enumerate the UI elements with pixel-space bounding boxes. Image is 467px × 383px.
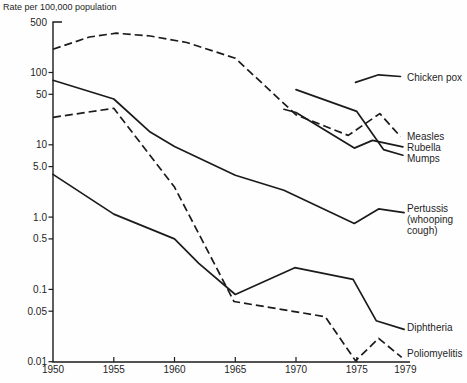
chart-figure: Rate per 100,000 population 50010050105.… [0, 0, 467, 383]
series-label-pertussis-whooping-cough-2: (whooping [407, 214, 453, 225]
y-tick-label-0-1: 0.1 [33, 284, 47, 295]
x-tick-label-1979: 1979 [394, 364, 417, 375]
y-tick-label-0-5: 0.5 [33, 233, 47, 244]
x-tick-label-1965: 1965 [224, 364, 247, 375]
y-tick-label-500: 500 [30, 17, 47, 28]
series-labels: Chicken poxMeaslesRubellaMumpsPertussis(… [407, 72, 463, 359]
y-tick-label-100: 100 [30, 67, 47, 78]
series-line-diphtheria [53, 174, 404, 329]
series-line-chicken-pox [356, 75, 401, 83]
axis-spine [53, 22, 410, 362]
series-label-measles: Measles [407, 131, 444, 142]
x-tick-label-1960: 1960 [163, 364, 186, 375]
series-label-poliomyelitis: Poliomyelitis [407, 348, 463, 359]
series-label-diphtheria: Diphtheria [407, 322, 453, 333]
series-label-chicken-pox: Chicken pox [407, 72, 462, 83]
y-tick-label-5-0: 5.0 [33, 161, 47, 172]
plot-area [53, 33, 404, 361]
x-tick-label-1955: 1955 [103, 364, 126, 375]
x-tick-label-1970: 1970 [285, 364, 308, 375]
series-label-pertussis-whooping-cough-1: Pertussis [407, 203, 448, 214]
chart-title: Rate per 100,000 population [3, 2, 117, 12]
y-tick-label-1-0: 1.0 [33, 212, 47, 223]
series-line-measles [53, 33, 401, 136]
y-tick-label-10: 10 [36, 139, 48, 150]
series-line-rubella [284, 109, 403, 148]
x-tick-label-1950: 1950 [42, 364, 65, 375]
y-tick-label-50: 50 [36, 89, 48, 100]
disease-rate-line-chart: Rate per 100,000 population 50010050105.… [0, 0, 467, 383]
series-line-pertussis-whooping-cough [53, 80, 404, 223]
series-label-pertussis-whooping-cough-3: cough) [407, 225, 438, 236]
series-label-mumps: Mumps [407, 153, 440, 164]
series-label-rubella: Rubella [407, 142, 441, 153]
series-line-poliomyelitis [53, 108, 402, 360]
x-tick-label-1975: 1975 [346, 364, 369, 375]
y-tick-label-0-05: 0.05 [28, 306, 48, 317]
